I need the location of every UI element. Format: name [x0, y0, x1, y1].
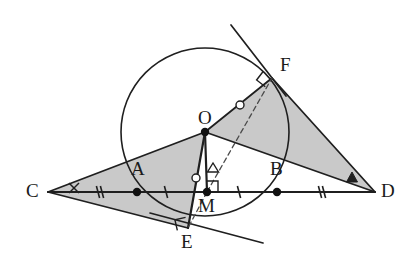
point-label-D: D — [381, 181, 395, 200]
point-label-A: A — [131, 159, 145, 178]
triangle-O-F-D — [205, 78, 375, 192]
angle-mark-OM-circle — [192, 174, 200, 182]
angle-mark-M-triangle — [208, 163, 219, 172]
point-label-F: F — [280, 55, 291, 74]
line-O-M — [205, 132, 207, 192]
diagram-canvas — [0, 0, 404, 271]
point-dot-B — [273, 188, 281, 196]
point-label-M: M — [198, 196, 215, 215]
point-label-C: C — [26, 181, 39, 200]
geometry-figure: CAMBDOEF — [0, 0, 404, 271]
tangent-at-E — [150, 213, 263, 243]
point-dot-A — [133, 188, 141, 196]
triangle-C-O-E — [48, 132, 205, 228]
angle-mark-OF-circle — [236, 101, 244, 109]
point-label-O: O — [198, 108, 212, 127]
point-dot-O — [201, 128, 209, 136]
point-label-B: B — [270, 159, 283, 178]
point-label-E: E — [181, 232, 193, 251]
